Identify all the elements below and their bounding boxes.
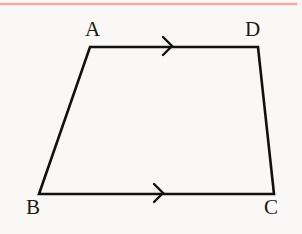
vertex-label-b: B: [26, 197, 40, 218]
vertex-label-d: D: [245, 19, 260, 40]
geometry-figure-canvas: A D C B: [0, 0, 302, 234]
vertex-label-a: A: [85, 19, 100, 40]
vertex-label-c: C: [264, 197, 278, 218]
